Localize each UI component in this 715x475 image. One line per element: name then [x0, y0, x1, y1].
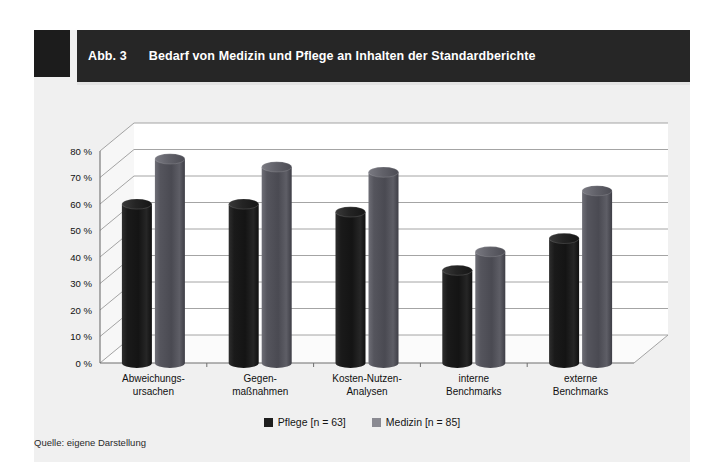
legend-label: Medizin [n = 85] [386, 416, 460, 428]
x-axis-category-label: Abweichungs- [122, 373, 185, 384]
y-axis-tick-label: 10 % [70, 331, 92, 342]
y-axis-tick-labels: 0 %10 %20 %30 %40 %50 %60 %70 %80 % [70, 146, 92, 369]
x-axis-category-label: Gegen- [244, 373, 277, 384]
y-axis-tick-label: 0 % [75, 358, 92, 369]
bar-pflege [549, 233, 579, 368]
y-axis-tick-label: 30 % [70, 278, 92, 289]
figure-header-tab [34, 30, 70, 77]
x-axis-category-label: maßnahmen [232, 386, 288, 397]
page-top-margin [0, 0, 715, 30]
source-note: Quelle: eigene Darstellung [34, 437, 146, 448]
page-left-margin [0, 0, 34, 475]
y-axis-tick-label: 40 % [70, 252, 92, 263]
x-axis-category-label: externe [564, 373, 598, 384]
legend-swatch-icon [372, 418, 381, 427]
page-title: Bedarf von Medizin und Pflege an Inhalte… [149, 49, 536, 63]
page-bottom-margin [0, 462, 715, 475]
x-axis-category-label: interne [459, 373, 490, 384]
bar-chart: 0 %10 %20 %30 %40 %50 %60 %70 %80 % Abwe… [34, 84, 690, 414]
x-axis-category-labels: Abweichungs-ursachenGegen-maßnahmenKoste… [122, 373, 608, 397]
x-axis-category-label: Benchmarks [446, 386, 502, 397]
bar-medizin [582, 186, 612, 368]
x-axis-category-label: Analysen [346, 386, 387, 397]
bar-medizin [262, 162, 292, 368]
bar-pflege [336, 207, 366, 368]
y-axis-tick-label: 20 % [70, 305, 92, 316]
bar-pflege [122, 199, 152, 368]
y-axis-tick-label: 50 % [70, 225, 92, 236]
y-axis-tick-label: 70 % [70, 172, 92, 183]
x-axis-category-label: ursachen [133, 386, 174, 397]
y-axis-tick-label: 80 % [70, 146, 92, 157]
bar-medizin [155, 154, 185, 368]
bar-pflege [442, 265, 472, 368]
figure-title-bar: Abb. 3 Bedarf von Medizin und Pflege an … [77, 30, 690, 82]
bar-medizin [475, 247, 505, 369]
bar-pflege [229, 199, 259, 368]
title-underline [77, 82, 690, 85]
legend-label: Pflege [n = 63] [278, 416, 346, 428]
x-axis-category-label: Benchmarks [553, 386, 609, 397]
chart-legend: Pflege [n = 63] Medizin [n = 85] [34, 412, 690, 432]
legend-item-pflege: Pflege [n = 63] [264, 416, 346, 428]
bar-medizin [369, 167, 399, 368]
chart-area: 0 %10 %20 %30 %40 %50 %60 %70 %80 % Abwe… [34, 84, 690, 414]
legend-swatch-icon [264, 418, 273, 427]
figure-number: Abb. 3 [88, 49, 127, 63]
y-axis-tick-label: 60 % [70, 199, 92, 210]
legend-item-medizin: Medizin [n = 85] [372, 416, 460, 428]
x-axis-category-label: Kosten-Nutzen- [332, 373, 401, 384]
page-right-margin [690, 0, 715, 475]
